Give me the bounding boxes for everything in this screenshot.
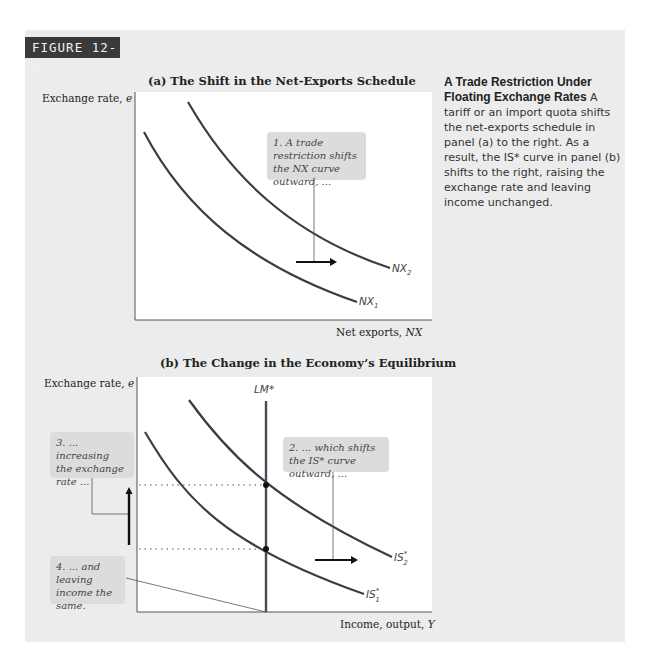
caption-body: A tariff or an import quota shifts the n… <box>444 91 620 209</box>
new-equilibrium-point <box>263 482 269 488</box>
figure-caption: A Trade Restriction Under Floating Excha… <box>444 75 624 210</box>
callout-2: 2. ... which shifts the IS* curve outwar… <box>283 437 389 472</box>
callout-3: 3. ... increasing the exchange rate ... <box>50 432 134 478</box>
exchange-rate-rise-arrow-icon <box>126 487 133 494</box>
callout-4: 4. ... and leaving income the same. <box>50 556 125 604</box>
lm-star-label: LM* <box>254 383 274 395</box>
caption-title: A Trade Restriction Under Floating Excha… <box>444 75 592 104</box>
panel-a-plot-area <box>135 92 432 320</box>
callout3-connector <box>92 477 128 514</box>
initial-equilibrium-point <box>263 546 269 552</box>
panel-b-plot-area <box>137 377 432 612</box>
callout-1: 1. A trade restriction shifts the NX cur… <box>267 132 366 180</box>
